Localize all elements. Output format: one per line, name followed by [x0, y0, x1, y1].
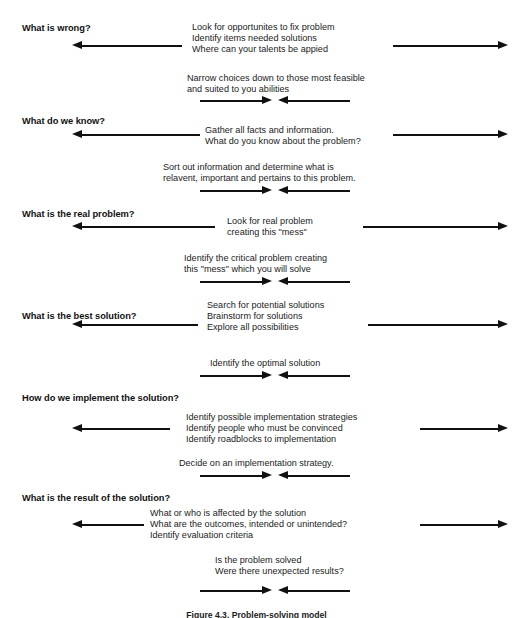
- arrow-shaft: [80, 524, 144, 526]
- stage-question-what-is-wrong: What is wrong?: [22, 23, 91, 34]
- outward-line: Identify roadblocks to implementation: [186, 434, 357, 445]
- arrow-shaft: [80, 428, 170, 430]
- arrow-right-what-is-the-real-problem: [363, 222, 508, 231]
- arrow-converge-left-how-do-we-implement: [278, 471, 350, 480]
- arrow-shaft: [200, 100, 264, 102]
- outward-line: Explore all possibilities: [207, 322, 324, 333]
- outward-line: Identify possible implementation strateg…: [186, 412, 357, 423]
- arrow-converge-left-what-do-we-know: [278, 186, 350, 195]
- arrow-shaft: [286, 281, 350, 283]
- stage-outward-text-how-do-we-implement: Identify possible implementation strateg…: [186, 412, 357, 446]
- arrowhead-right-icon: [262, 96, 272, 104]
- stage-converge-text-how-do-we-implement: Decide on an implementation strategy.: [179, 458, 334, 469]
- arrowhead-right-icon: [498, 222, 508, 230]
- arrow-left-what-is-the-real-problem: [72, 222, 215, 231]
- converge-line: Narrow choices down to those most feasib…: [187, 73, 365, 84]
- arrow-left-what-is-the-best-solution: [72, 320, 198, 329]
- arrow-shaft: [80, 226, 215, 228]
- stage-converge-text-what-is-wrong: Narrow choices down to those most feasib…: [187, 73, 365, 95]
- arrow-right-what-do-we-know: [393, 130, 508, 139]
- arrow-left-what-is-the-result: [72, 520, 144, 529]
- arrow-shaft: [200, 281, 264, 283]
- stage-converge-text-what-is-the-result: Is the problem solved Were there unexpec…: [215, 555, 344, 577]
- arrow-converge-right-how-do-we-implement: [200, 471, 272, 480]
- outward-line: Identify items needed solutions: [192, 33, 335, 44]
- arrowhead-right-icon: [498, 520, 508, 528]
- stage-converge-text-what-is-the-best-solution: Identify the optimal solution: [210, 358, 320, 369]
- converge-line: Identify the optimal solution: [210, 358, 320, 369]
- stage-outward-text-what-is-the-real-problem: Look for real problem creating this "mes…: [227, 216, 313, 238]
- stage-outward-text-what-is-the-best-solution: Search for potential solutions Brainstor…: [207, 300, 324, 334]
- arrowhead-right-icon: [262, 586, 272, 594]
- outward-line: What are the outcomes, intended or unint…: [150, 519, 347, 530]
- arrowhead-right-icon: [262, 277, 272, 285]
- arrow-right-what-is-the-best-solution: [368, 320, 508, 329]
- converge-line: relavent, important and pertains to this…: [163, 173, 356, 184]
- stage-converge-text-what-is-the-real-problem: Identify the critical problem creating t…: [184, 253, 327, 275]
- arrow-converge-right-what-do-we-know: [200, 186, 272, 195]
- arrow-shaft: [363, 226, 500, 228]
- arrow-converge-right-what-is-the-result: [200, 586, 272, 595]
- stage-question-what-is-the-result: What is the result of the solution?: [22, 493, 170, 504]
- outward-line: What do you know about the problem?: [205, 136, 361, 147]
- outward-line: Look for real problem: [227, 216, 313, 227]
- stage-outward-text-what-do-we-know: Gather all facts and information. What d…: [205, 125, 361, 147]
- arrow-converge-left-what-is-the-real-problem: [278, 277, 350, 286]
- converge-line: Were there unexpected results?: [215, 566, 344, 577]
- outward-line: Search for potential solutions: [207, 300, 324, 311]
- outward-line: What or who is affected by the solution: [150, 508, 347, 519]
- arrow-left-what-do-we-know: [72, 130, 200, 139]
- problem-solving-diagram: What is wrong? Look for opportunites to …: [0, 0, 513, 618]
- outward-line: creating this "mess": [227, 227, 313, 238]
- arrowhead-right-icon: [262, 471, 272, 479]
- stage-question-what-is-the-real-problem: What is the real problem?: [22, 209, 134, 220]
- arrow-left-what-is-wrong: [72, 41, 182, 50]
- arrowhead-right-icon: [262, 186, 272, 194]
- arrow-shaft: [286, 475, 350, 477]
- arrow-shaft: [393, 45, 500, 47]
- arrow-shaft: [420, 524, 500, 526]
- arrow-shaft: [200, 375, 264, 377]
- stage-converge-text-what-do-we-know: Sort out information and determine what …: [163, 162, 356, 184]
- arrow-shaft: [286, 190, 350, 192]
- outward-line: Brainstorm for solutions: [207, 311, 324, 322]
- outward-line: Gather all facts and information.: [205, 125, 361, 136]
- arrow-shaft: [80, 45, 182, 47]
- arrow-shaft: [200, 190, 264, 192]
- arrowhead-right-icon: [498, 424, 508, 432]
- arrow-shaft: [80, 134, 200, 136]
- arrow-shaft: [286, 375, 350, 377]
- arrow-shaft: [200, 590, 264, 592]
- arrow-converge-left-what-is-the-result: [278, 586, 350, 595]
- arrow-shaft: [393, 134, 500, 136]
- outward-line: Look for opportunites to fix problem: [192, 22, 335, 33]
- converge-line: this "mess" which you will solve: [184, 264, 327, 275]
- arrowhead-right-icon: [262, 371, 272, 379]
- arrowhead-right-icon: [498, 41, 508, 49]
- arrowhead-right-icon: [498, 130, 508, 138]
- outward-line: Identify people who must be convinced: [186, 423, 357, 434]
- stage-outward-text-what-is-the-result: What or who is affected by the solution …: [150, 508, 347, 542]
- arrow-shaft: [286, 590, 350, 592]
- converge-line: Identify the critical problem creating: [184, 253, 327, 264]
- converge-line: Is the problem solved: [215, 555, 344, 566]
- converge-line: Decide on an implementation strategy.: [179, 458, 334, 469]
- converge-line: and suited to you abilities: [187, 84, 365, 95]
- outward-line: Where can your talents be appied: [192, 44, 335, 55]
- arrow-shaft: [286, 100, 350, 102]
- arrow-right-what-is-wrong: [393, 41, 508, 50]
- figure-caption: Figure 4.3. Problem-solving model: [0, 610, 513, 618]
- arrow-converge-left-what-is-the-best-solution: [278, 371, 350, 380]
- arrow-right-what-is-the-result: [420, 520, 508, 529]
- arrow-converge-left-what-is-wrong: [278, 96, 350, 105]
- arrow-left-how-do-we-implement: [72, 424, 170, 433]
- arrow-converge-right-what-is-wrong: [200, 96, 272, 105]
- stage-outward-text-what-is-wrong: Look for opportunites to fix problem Ide…: [192, 22, 335, 56]
- arrow-converge-right-what-is-the-real-problem: [200, 277, 272, 286]
- converge-line: Sort out information and determine what …: [163, 162, 356, 173]
- arrow-shaft: [368, 324, 500, 326]
- arrow-shaft: [80, 324, 198, 326]
- stage-question-how-do-we-implement: How do we implement the solution?: [22, 393, 179, 404]
- arrow-shaft: [200, 475, 264, 477]
- arrow-converge-right-what-is-the-best-solution: [200, 371, 272, 380]
